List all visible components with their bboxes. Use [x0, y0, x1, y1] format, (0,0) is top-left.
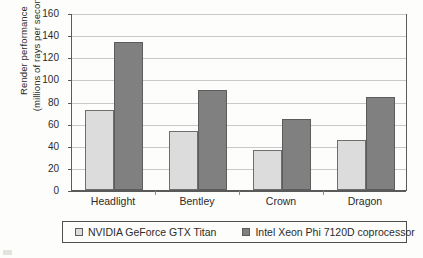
- plot-area: [71, 14, 407, 191]
- y-tick-mark-20: [68, 169, 72, 170]
- y-tick-mark-120: [68, 58, 72, 59]
- legend-swatch-icon-1: [242, 228, 250, 236]
- y-tick-label-40: 40: [48, 142, 59, 152]
- legend-label-0: NVIDIA GeForce GTX Titan: [88, 227, 216, 238]
- y-tick-label-100: 100: [42, 75, 59, 85]
- x-category-label-headlight: Headlight: [91, 194, 135, 208]
- y-tick-mark-40: [68, 147, 72, 148]
- y-tick-label-0: 0: [53, 186, 59, 196]
- bar-crown-series-1: [282, 119, 311, 190]
- bar-crown-series-0: [253, 150, 282, 190]
- chart-legend: NVIDIA GeForce GTX Titan Intel Xeon Phi …: [62, 221, 407, 243]
- legend-swatch-icon-0: [75, 228, 83, 236]
- x-axis-category-labels: HeadlightBentleyCrownDragon: [71, 194, 407, 210]
- legend-item-1[interactable]: Intel Xeon Phi 7120D coprocessor: [242, 227, 414, 238]
- y-tick-mark-140: [68, 36, 72, 37]
- y-tick-label-160: 160: [42, 9, 59, 19]
- gridline-140: [72, 36, 406, 37]
- bar-headlight-series-0: [85, 110, 114, 190]
- bar-headlight-series-1: [114, 42, 143, 190]
- y-tick-mark-160: [68, 14, 72, 15]
- x-category-label-bentley: Bentley: [179, 194, 214, 208]
- y-tick-label-60: 60: [48, 120, 59, 130]
- y-tick-mark-100: [68, 80, 72, 81]
- bar-bentley-series-0: [169, 131, 198, 190]
- bar-bentley-series-1: [198, 90, 227, 190]
- y-axis-tick-labels: 160140120100806040200: [0, 14, 66, 191]
- y-tick-mark-80: [68, 103, 72, 104]
- y-tick-mark-60: [68, 125, 72, 126]
- x-category-label-crown: Crown: [266, 194, 296, 208]
- legend-label-1: Intel Xeon Phi 7120D coprocessor: [255, 227, 414, 238]
- scan-artifact: [3, 250, 12, 255]
- bar-dragon-series-1: [366, 97, 395, 190]
- x-category-label-dragon: Dragon: [348, 194, 382, 208]
- y-tick-label-140: 140: [42, 31, 59, 41]
- y-tick-label-20: 20: [48, 164, 59, 174]
- bar-chart-figure: Render performance (millions of rays per…: [0, 0, 423, 258]
- gridline-160: [72, 14, 406, 15]
- y-tick-label-80: 80: [48, 98, 59, 108]
- bar-dragon-series-0: [337, 140, 366, 190]
- legend-item-0[interactable]: NVIDIA GeForce GTX Titan: [75, 227, 216, 238]
- y-tick-label-120: 120: [42, 53, 59, 63]
